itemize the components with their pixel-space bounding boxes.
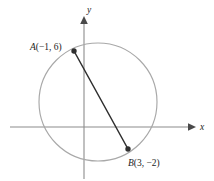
coordinate-plane-figure: y x A(−1, 6) B(3, −2) [0, 0, 214, 181]
circle-shape [39, 43, 157, 161]
point-b-label: B(3, −2) [128, 158, 160, 169]
point-b-coords: (3, −2) [134, 158, 160, 169]
x-axis-label: x [199, 122, 205, 132]
y-axis-arrowhead-icon [80, 16, 88, 24]
point-a-label: A(−1, 6) [29, 42, 62, 53]
point-b-dot [125, 146, 130, 151]
point-a-dot [71, 48, 76, 53]
point-a-coords: (−1, 6) [36, 42, 62, 53]
x-axis-arrowhead-icon [188, 123, 196, 131]
figure-canvas: y x A(−1, 6) B(3, −2) [0, 0, 214, 181]
y-axis-label: y [86, 5, 92, 15]
chord-segment-ab [74, 51, 128, 149]
